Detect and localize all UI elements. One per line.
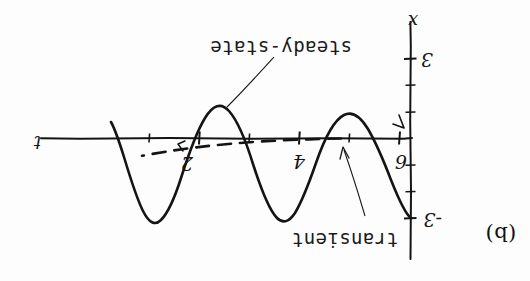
t-axis-line bbox=[41, 138, 412, 139]
t-axis-group bbox=[41, 132, 412, 145]
transient-leader-line bbox=[344, 150, 365, 216]
x-axis-label: x bbox=[408, 12, 418, 30]
steady-state-curve bbox=[111, 106, 411, 223]
rotated-figure-content: t x 6 4 2 3 -3 transient steady-state bbox=[0, 0, 530, 281]
figure-panel: t x 6 4 2 3 -3 transient steady-state (b… bbox=[0, 0, 530, 281]
t-tick-label-4: 4 bbox=[293, 152, 305, 171]
t-axis-origin-arrow bbox=[393, 115, 404, 128]
t-tick-4 bbox=[299, 132, 300, 145]
transient-curve bbox=[142, 139, 341, 156]
t-tick-6 bbox=[399, 132, 400, 145]
t-tick-2 bbox=[199, 132, 200, 145]
transient-annotation-label: transient bbox=[291, 230, 398, 249]
figure-caption: (b) bbox=[485, 222, 516, 246]
steady-state-annotation-label: steady-state bbox=[210, 38, 352, 57]
steady-state-leader-line bbox=[227, 57, 274, 107]
x-axis-group bbox=[404, 22, 417, 259]
t-tick-label-6: 6 bbox=[395, 152, 407, 171]
t-tick-label-2: 2 bbox=[181, 154, 193, 173]
t-tick-5 bbox=[349, 134, 350, 143]
t-axis-label: t bbox=[34, 133, 41, 151]
x-axis-line bbox=[410, 22, 411, 259]
t-tick-1 bbox=[149, 134, 150, 143]
x-tick-minus3 bbox=[404, 59, 417, 60]
x-tick-label-minus-3: -3 bbox=[423, 210, 442, 229]
x-tick-label-3: 3 bbox=[421, 50, 433, 69]
